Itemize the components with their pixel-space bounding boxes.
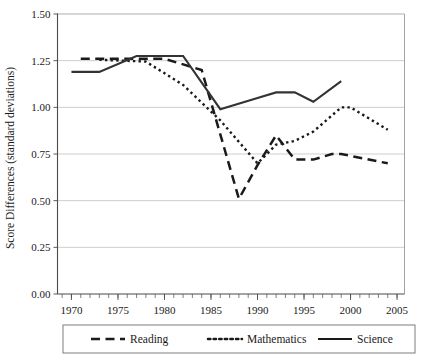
line-chart: 0.000.250.500.751.001.251.50 19701975198… — [0, 0, 427, 358]
x-tick-label: 2005 — [386, 304, 409, 316]
legend-label-reading: Reading — [130, 333, 169, 346]
y-axis-title: Score Differences (standard deviations) — [4, 67, 17, 249]
y-tick-label: 1.00 — [31, 101, 51, 113]
x-tick-label: 1985 — [200, 304, 223, 316]
chart-legend: ReadingMathematicsScience — [63, 325, 415, 353]
x-tick-label: 1980 — [153, 304, 176, 316]
x-tick-label: 2000 — [340, 304, 363, 316]
chart-container: 0.000.250.500.751.001.251.50 19701975198… — [0, 0, 427, 358]
y-tick-label: 0.25 — [31, 241, 51, 253]
y-tick-label: 0.00 — [31, 288, 51, 300]
y-tick-label: 0.75 — [31, 148, 51, 160]
y-tick-label: 1.25 — [31, 55, 51, 67]
y-tick-label: 1.50 — [31, 8, 51, 20]
legend-label-science: Science — [357, 333, 393, 345]
legend-label-mathematics: Mathematics — [247, 333, 307, 345]
x-tick-label: 1975 — [107, 304, 130, 316]
y-tick-label: 0.50 — [31, 195, 51, 207]
x-tick-label: 1995 — [293, 304, 316, 316]
x-tick-label: 1990 — [247, 304, 270, 316]
x-tick-label: 1970 — [60, 304, 83, 316]
